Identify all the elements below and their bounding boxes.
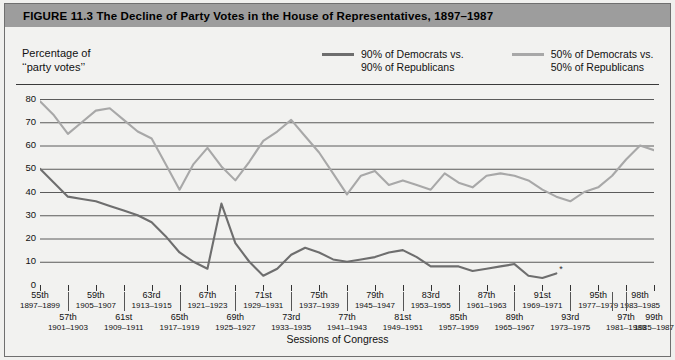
session-number: 57th [42, 313, 94, 323]
legend-label-50: 50% of Democrats vs. 50% of Republicans [551, 48, 654, 73]
session-years: 1929–1931 [237, 301, 289, 311]
y-axis-tick-label: 70 [18, 116, 36, 127]
x-axis-session-label: 65th1917–1919 [154, 313, 206, 332]
session-number: 65th [154, 313, 206, 323]
legend-label-50-line2: 50% of Republicans [551, 61, 644, 73]
chart-series-line [40, 169, 556, 278]
x-label-separator [180, 292, 181, 311]
x-axis-session-label: 59th1905–1907 [70, 291, 122, 310]
x-label-separator [347, 292, 348, 311]
session-years: 1969–1971 [516, 301, 568, 311]
session-years: 1933–1935 [265, 323, 317, 333]
x-axis-session-label: 91st1969–1971 [516, 291, 568, 310]
session-number: 83rd [405, 291, 457, 301]
session-years: 1905–1907 [70, 301, 122, 311]
x-axis-tick [180, 285, 181, 291]
session-years: 1961–1963 [461, 301, 513, 311]
y-axis-tick-label: 50 [18, 162, 36, 173]
session-years: 1901–1903 [42, 323, 94, 333]
session-number: 91st [516, 291, 568, 301]
chart-plot-area: * [40, 99, 654, 285]
x-axis-tick [570, 285, 571, 291]
figure-root: FIGURE 11.3 The Decline of Party Votes i… [0, 0, 675, 360]
x-axis-tick [403, 285, 404, 291]
legend-label-90-line2: 90% of Republicans [361, 61, 454, 73]
series-end-marker: * [559, 264, 563, 274]
y-axis-tick-label: 80 [18, 93, 36, 104]
x-label-separator [626, 292, 627, 311]
legend-swatch-90 [322, 53, 354, 56]
y-axis-caption: Percentage of ‘‘party votes’’ [22, 46, 91, 74]
x-axis-title: Sessions of Congress [0, 333, 675, 345]
session-number: 55th [14, 291, 66, 301]
x-axis-session-label: 81st1949–1951 [377, 313, 429, 332]
y-axis-tick-label: 30 [18, 209, 36, 220]
x-axis-session-label: 98th1983–1985 [614, 291, 666, 310]
session-number: 79th [349, 291, 401, 301]
session-number: 61st [98, 313, 150, 323]
session-number: 93rd [544, 313, 596, 323]
x-axis-session-label: 93rd1973–1975 [544, 313, 596, 332]
x-axis-session-label: 61st1909–1911 [98, 313, 150, 332]
session-number: 59th [70, 291, 122, 301]
session-number: 71st [237, 291, 289, 301]
x-axis-session-label: 55th1897–1899 [14, 291, 66, 310]
session-years: 1957–1959 [433, 323, 485, 333]
page-title: FIGURE 11.3 The Decline of Party Votes i… [5, 10, 493, 22]
header-divider [16, 84, 659, 85]
x-axis-session-label: 63rd1913–1915 [126, 291, 178, 310]
x-axis-tick [124, 285, 125, 291]
legend-item-90: 90% of Democrats vs. 90% of Republicans [322, 48, 464, 73]
x-axis-session-label: 83rd1953–1955 [405, 291, 457, 310]
legend-item-50: 50% of Democrats vs. 50% of Republicans [512, 48, 654, 73]
x-axis-session-label: 75th1937–1939 [293, 291, 345, 310]
session-number: 67th [181, 291, 233, 301]
session-years: 1983–1985 [614, 301, 666, 311]
session-number: 87th [461, 291, 513, 301]
chart-series-line [40, 101, 654, 201]
x-axis-tick [235, 285, 236, 291]
x-label-separator [124, 292, 125, 311]
x-axis-session-label: 79th1945–1947 [349, 291, 401, 310]
x-label-separator [403, 292, 404, 311]
x-axis-session-label: 71st1929–1931 [237, 291, 289, 310]
y-axis-tick-label: 10 [18, 255, 36, 266]
x-label-separator [612, 292, 613, 311]
legend-swatch-50 [512, 53, 544, 56]
figure-title-bar: FIGURE 11.3 The Decline of Party Votes i… [5, 4, 670, 27]
session-number: 63rd [126, 291, 178, 301]
x-axis-tick [514, 285, 515, 291]
session-number: 85th [433, 313, 485, 323]
legend-label-90: 90% of Democrats vs. 90% of Republicans [361, 48, 464, 73]
x-label-separator [514, 292, 515, 311]
session-years: 1985–1987 [628, 323, 675, 333]
x-axis-session-label: 89th1965–1967 [488, 313, 540, 332]
session-years: 1945–1947 [349, 301, 401, 311]
x-axis-session-label: 87th1961–1963 [461, 291, 513, 310]
session-years: 1909–1911 [98, 323, 150, 333]
x-axis-session-label: 57th1901–1903 [42, 313, 94, 332]
x-axis-tick [459, 285, 460, 291]
session-years: 1921–1923 [181, 301, 233, 311]
y-axis-tick-label: 0 [18, 279, 36, 290]
x-label-separator [459, 292, 460, 311]
chart-svg: * [40, 99, 654, 285]
session-number: 89th [488, 313, 540, 323]
session-years: 1973–1975 [544, 323, 596, 333]
session-number: 98th [614, 291, 666, 301]
legend: 90% of Democrats vs. 90% of Republicans … [322, 48, 653, 73]
session-years: 1949–1951 [377, 323, 429, 333]
session-years: 1917–1919 [154, 323, 206, 333]
session-number: 77th [321, 313, 373, 323]
x-label-separator [570, 292, 571, 311]
session-years: 1897–1899 [14, 301, 66, 311]
x-axis-tick [291, 285, 292, 291]
x-axis-tick [68, 285, 69, 291]
y-axis-caption-line1: Percentage of [22, 47, 91, 59]
session-number: 99th [628, 313, 675, 323]
session-number: 81st [377, 313, 429, 323]
session-years: 1965–1967 [488, 323, 540, 333]
session-years: 1925–1927 [209, 323, 261, 333]
legend-label-50-line1: 50% of Democrats vs. [551, 48, 654, 60]
session-years: 1913–1915 [126, 301, 178, 311]
